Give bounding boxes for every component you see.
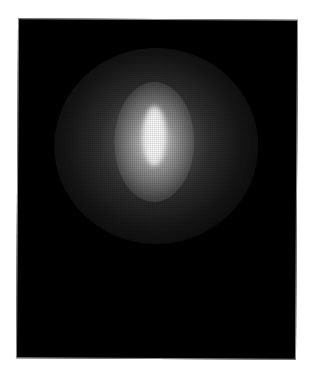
photograph xyxy=(16,18,298,360)
